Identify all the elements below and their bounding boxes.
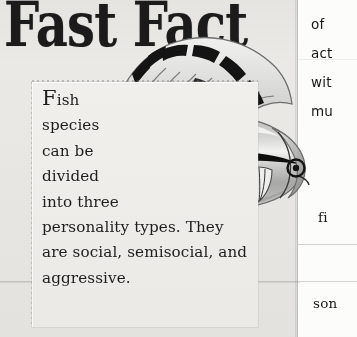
inset-line-1: ish	[57, 91, 80, 109]
inset-line-4: divided	[42, 164, 248, 189]
inset-dropcap: F	[42, 86, 57, 110]
right-column-line-6: son	[313, 295, 337, 311]
inset-line-2: species	[42, 113, 248, 138]
inset-line-3: can be	[42, 139, 248, 164]
inset-line-8: aggressive.	[42, 266, 248, 291]
right-column-line-5: fi	[318, 209, 328, 225]
page-rule-mid-right	[298, 244, 357, 245]
right-column-line-3: wit	[311, 74, 332, 90]
right-column-line-1: of	[311, 16, 324, 32]
right-column-line-4: mu	[311, 103, 333, 119]
inset-line-7: are social, semisocial, and	[42, 240, 248, 265]
fast-fact-text: Fish species can be divided into three p…	[42, 88, 248, 291]
inset-line-6: personality types. They	[42, 215, 248, 240]
right-column-line-2: act	[311, 45, 333, 61]
inset-line-5: into three	[42, 190, 248, 215]
scanned-book-page: Fast Fact	[0, 0, 357, 337]
